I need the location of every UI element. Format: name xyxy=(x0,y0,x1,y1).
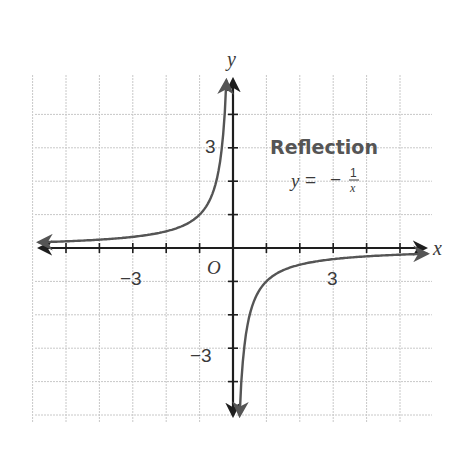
y-tick-label-3: 3 xyxy=(205,136,216,157)
y-tick-label-neg3: −3 xyxy=(190,345,212,366)
equation-minus: − xyxy=(330,169,341,190)
reflection-graph: x y O −3 3 3 −3 Reflection y = − 1 x xyxy=(0,0,472,467)
y-axis-label: y xyxy=(225,48,236,71)
equation-equals: = xyxy=(305,169,316,190)
x-tick-label-neg3: −3 xyxy=(120,268,142,289)
equation-denominator: x xyxy=(349,181,356,195)
equation-numerator: 1 xyxy=(350,166,357,180)
equation-lhs: y xyxy=(289,170,300,191)
chart-title: Reflection xyxy=(270,136,378,158)
x-tick-label-3: 3 xyxy=(327,268,338,289)
x-axis-label: x xyxy=(432,237,442,259)
origin-label: O xyxy=(207,257,221,278)
